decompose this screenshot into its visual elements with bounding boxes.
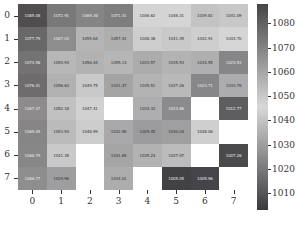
heatmap-cell: 1024.86	[162, 97, 191, 120]
heatmap-cell	[104, 97, 133, 120]
heatmap-cell: 1046.31	[162, 4, 191, 27]
heatmap-cell: 1030.04	[162, 120, 191, 143]
x-tick	[147, 190, 148, 194]
heatmap-cell	[191, 144, 220, 167]
y-tick	[14, 85, 18, 86]
colorbar-tick	[268, 96, 271, 97]
heatmap-cell: 1056.44	[76, 51, 105, 74]
heatmap-cell: 1029.45	[133, 120, 162, 143]
y-tick-label: 2	[2, 56, 12, 66]
heatmap-cell: 1023.53	[219, 51, 248, 74]
heatmap-cell	[219, 167, 248, 190]
heatmap-cell: 1055.64	[76, 27, 105, 50]
colorbar-tick	[268, 23, 271, 24]
colorbar-tick-label: 1030	[272, 141, 295, 150]
y-tick-label: 4	[2, 103, 12, 113]
heatmap-cell: 1041.45	[162, 27, 191, 50]
heatmap-cell: 1068.79	[18, 144, 47, 167]
x-tick	[61, 190, 62, 194]
heatmap-cell: 1048.99	[76, 120, 105, 143]
heatmap-grid: 1085.081072.911069.381071.311046.621046.…	[18, 4, 248, 190]
x-tick-label: 4	[137, 196, 157, 206]
heatmap-cell: 1048.38	[133, 27, 162, 50]
heatmap-cell: 1005.96	[191, 167, 220, 190]
heatmap-cell: 1033.57	[133, 51, 162, 74]
y-tick	[14, 155, 18, 156]
y-tick-label: 7	[2, 172, 12, 182]
heatmap-cell: 1074.58	[18, 51, 47, 74]
heatmap-cell: 1041.09	[219, 4, 248, 27]
heatmap-cell: 1031.47	[104, 74, 133, 97]
colorbar-tick	[268, 145, 271, 146]
heatmap-cell: 1007.26	[219, 144, 248, 167]
y-tick	[14, 62, 18, 63]
heatmap-cell: 1072.91	[47, 4, 76, 27]
heatmap-cell: 1069.38	[76, 4, 105, 27]
heatmap-cell: 1034.33	[133, 97, 162, 120]
colorbar-tick-label: 1060	[272, 68, 295, 77]
heatmap-cell: 1042.91	[191, 27, 220, 50]
heatmap-cell: 1039.81	[191, 4, 220, 27]
y-tick	[14, 109, 18, 110]
heatmap-cell: 1037.26	[162, 74, 191, 97]
x-tick	[234, 190, 235, 194]
heatmap-cell	[133, 167, 162, 190]
heatmap-cell: 1056.63	[47, 74, 76, 97]
colorbar-tick	[268, 72, 271, 73]
heatmap-cell: 1041.35	[47, 144, 76, 167]
heatmap-cell: 1029.96	[47, 167, 76, 190]
x-tick-label: 7	[224, 196, 244, 206]
x-tick-label: 2	[80, 196, 100, 206]
heatmap-cell: 1053.93	[47, 120, 76, 143]
heatmap-cell: 1047.41	[76, 97, 105, 120]
colorbar-tick	[268, 193, 271, 194]
y-tick	[14, 39, 18, 40]
heatmap-cell: 1035.51	[133, 74, 162, 97]
heatmap-cell: 1034.55	[191, 51, 220, 74]
colorbar	[257, 4, 268, 210]
y-tick-label: 5	[2, 126, 12, 136]
heatmap-cell: 1023.71	[191, 74, 220, 97]
x-tick	[205, 190, 206, 194]
x-tick	[119, 190, 120, 194]
colorbar-tick-label: 1020	[272, 165, 295, 174]
x-tick-label: 6	[195, 196, 215, 206]
y-tick	[14, 132, 18, 133]
heatmap-cell	[191, 97, 220, 120]
heatmap-cell: 1035.53	[162, 51, 191, 74]
heatmap-cell	[219, 120, 248, 143]
heatmap-cell: 1067.47	[18, 97, 47, 120]
colorbar-tick	[268, 169, 271, 170]
colorbar-tick	[268, 48, 271, 49]
heatmap-cell: 1035.24	[133, 144, 162, 167]
x-tick	[90, 190, 91, 194]
heatmap-cell: 1069.05	[18, 120, 47, 143]
heatmap-cell: 1054.93	[47, 51, 76, 74]
heatmap-cell: 1048.06	[191, 120, 220, 143]
x-tick-label: 3	[109, 196, 129, 206]
heatmap-cell: 1046.62	[133, 4, 162, 27]
heatmap-cell: 1049.75	[76, 74, 105, 97]
heatmap-cell: 1012.77	[219, 97, 248, 120]
heatmap-cell: 1037.97	[162, 144, 191, 167]
colorbar-tick-label: 1010	[272, 189, 295, 198]
heatmap-cell: 1067.04	[47, 27, 76, 50]
colorbar-tick-label: 1080	[272, 19, 295, 28]
colorbar-tick-label: 1050	[272, 92, 295, 101]
heatmap-cell: 1031.65	[104, 144, 133, 167]
y-tick-label: 6	[2, 149, 12, 159]
heatmap-cell	[76, 167, 105, 190]
y-tick-label: 3	[2, 79, 12, 89]
heatmap-cell: 1033.79	[219, 74, 248, 97]
x-tick-label: 0	[22, 196, 42, 206]
heatmap-cell	[76, 144, 105, 167]
heatmap-cell: 1034.01	[104, 167, 133, 190]
y-tick-label: 0	[2, 10, 12, 20]
heatmap-cell: 1032.98	[104, 120, 133, 143]
x-tick	[32, 190, 33, 194]
heatmap-cell: 1066.77	[18, 167, 47, 190]
x-tick	[176, 190, 177, 194]
heatmap-cell: 1055.13	[104, 51, 133, 74]
y-tick	[14, 16, 18, 17]
heatmap-cell: 1005.05	[162, 167, 191, 190]
